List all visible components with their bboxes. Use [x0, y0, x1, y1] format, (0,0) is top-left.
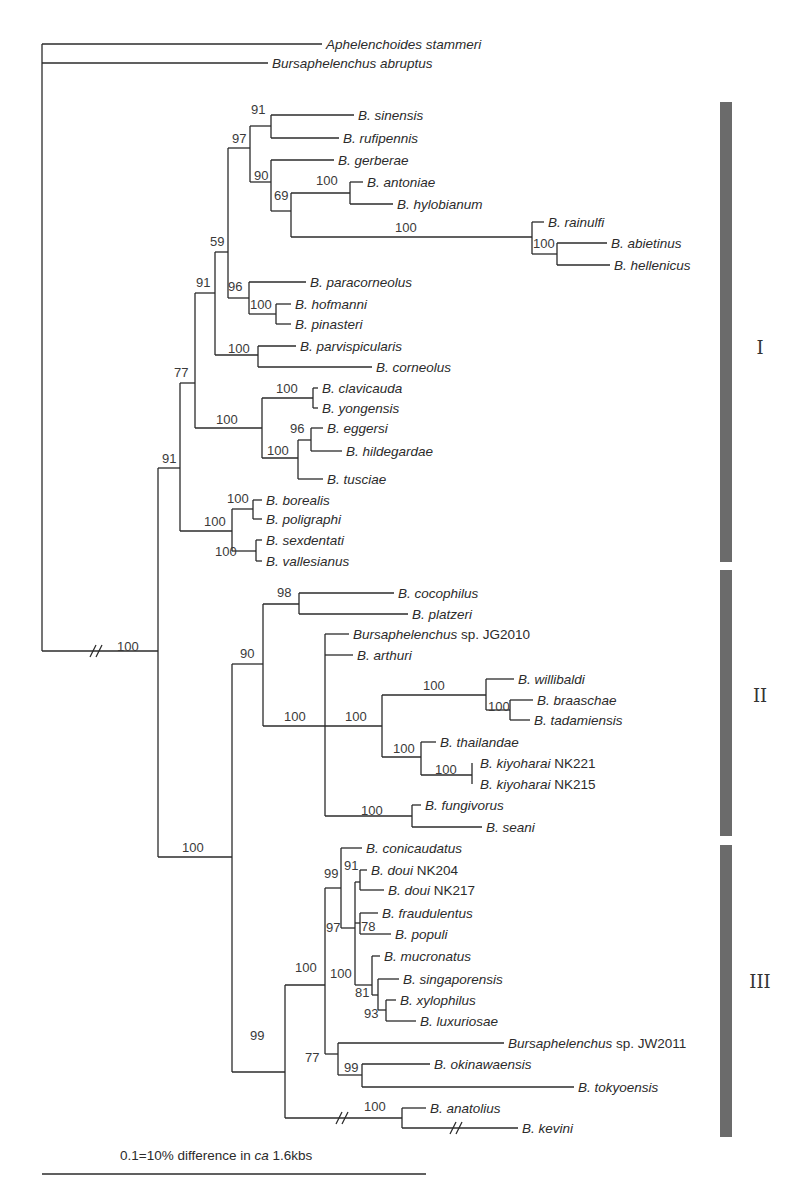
taxon-label: B. singaporensis: [403, 972, 503, 987]
taxon-label: B. hofmanni: [295, 297, 368, 312]
bootstrap-values: 1009177915997919069100100100961001001001…: [117, 102, 555, 1114]
taxon-label: Bursaphelenchus sp. JG2010: [353, 627, 530, 642]
phylogenetic-tree: Aphelenchoides stammeriBursaphelenchus a…: [0, 0, 790, 1196]
taxon-label: B. gerberae: [338, 153, 409, 168]
taxon-label: B. poligraphi: [266, 512, 342, 527]
taxon-label: B. hellenicus: [614, 258, 691, 273]
clade-bar: [720, 845, 732, 1137]
bootstrap-value: 81: [355, 985, 369, 1000]
bootstrap-value: 100: [393, 741, 415, 756]
bootstrap-value: 100: [215, 544, 237, 559]
bootstrap-value: 100: [435, 762, 457, 777]
bootstrap-value: 100: [182, 840, 204, 855]
bootstrap-value: 100: [228, 341, 250, 356]
bootstrap-value: 99: [344, 1060, 358, 1075]
taxon-label: B. luxuriosae: [420, 1014, 498, 1029]
bootstrap-value: 100: [216, 412, 238, 427]
bootstrap-value: 77: [305, 1050, 319, 1065]
clade-label: I: [756, 337, 763, 358]
bootstrap-value: 100: [316, 173, 338, 188]
bootstrap-value: 59: [210, 234, 224, 249]
bootstrap-value: 100: [267, 443, 289, 458]
bootstrap-value: 100: [227, 491, 249, 506]
taxon-label: B. tadamiensis: [534, 713, 623, 728]
clade-bar: [720, 570, 732, 836]
bootstrap-value: 96: [290, 421, 304, 436]
bootstrap-value: 99: [324, 866, 338, 881]
scale-bar-label: 0.1=10% difference in ca 1.6kbs: [120, 1148, 313, 1163]
bootstrap-value: 100: [276, 381, 298, 396]
taxon-label: B. kiyoharai NK215: [480, 777, 596, 792]
taxon-label: B. sexdentati: [266, 533, 345, 548]
taxon-label: B. antoniae: [367, 175, 435, 190]
bootstrap-value: 69: [274, 188, 288, 203]
bootstrap-value: 100: [533, 236, 555, 251]
taxon-label: B. eggersi: [327, 421, 389, 436]
bootstrap-value: 100: [330, 966, 352, 981]
clade-markers: IIIIII: [720, 102, 771, 1137]
bootstrap-value: 91: [344, 858, 358, 873]
bootstrap-value: 91: [196, 275, 210, 290]
taxon-label: B. seani: [486, 820, 536, 835]
bootstrap-value: 100: [345, 709, 367, 724]
taxon-label: B. populi: [395, 927, 449, 942]
taxon-label: B. parvispicularis: [300, 339, 402, 354]
taxon-label: B. paracorneolus: [310, 275, 412, 290]
bootstrap-value: 100: [364, 1099, 386, 1114]
bootstrap-value: 90: [240, 646, 254, 661]
taxon-label: B. doui NK217: [388, 883, 475, 898]
clade-label: III: [749, 971, 770, 992]
bootstrap-value: 100: [395, 220, 417, 235]
taxon-label: B. rufipennis: [343, 131, 418, 146]
taxon-label: B. yongensis: [322, 401, 400, 416]
clade-bar: [720, 102, 732, 562]
taxon-label: B. anatolius: [430, 1101, 501, 1116]
taxon-label: B. thailandae: [440, 735, 519, 750]
bootstrap-value: 100: [423, 678, 445, 693]
bootstrap-value: 77: [174, 365, 188, 380]
taxon-label: Bursaphelenchus sp. JW2011: [508, 1036, 686, 1051]
bootstrap-value: 91: [251, 102, 265, 117]
bootstrap-value: 100: [204, 514, 226, 529]
taxon-label: B. willibaldi: [518, 672, 586, 687]
bootstrap-value: 100: [284, 709, 306, 724]
scale-bar: 0.1=10% difference in ca 1.6kbs: [42, 1148, 426, 1174]
taxon-label: B. doui NK204: [371, 863, 459, 878]
bootstrap-value: 78: [361, 919, 375, 934]
taxon-label: B. okinawaensis: [434, 1057, 532, 1072]
taxon-label: B. abietinus: [611, 236, 682, 251]
bootstrap-value: 100: [295, 960, 317, 975]
taxon-label: B. mucronatus: [384, 949, 471, 964]
taxon-label: B. tokyoensis: [578, 1080, 659, 1095]
taxon-label: B. conicaudatus: [366, 841, 462, 856]
clade-label: II: [753, 685, 767, 706]
bootstrap-value: 96: [228, 279, 242, 294]
taxon-label: B. platzeri: [412, 607, 473, 622]
taxon-label: B. corneolus: [376, 360, 451, 375]
taxon-label: B. braaschae: [537, 693, 617, 708]
bootstrap-value: 100: [488, 699, 510, 714]
taxon-label: B. tusciae: [327, 472, 386, 487]
bootstrap-value: 100: [361, 803, 383, 818]
taxon-label: B. sinensis: [358, 108, 424, 123]
bootstrap-value: 91: [162, 451, 176, 466]
bootstrap-value: 97: [232, 131, 246, 146]
bootstrap-value: 100: [117, 639, 139, 654]
taxon-label: B. kiyoharai NK221: [480, 756, 596, 771]
taxon-label: Bursaphelenchus abruptus: [272, 56, 433, 71]
bootstrap-value: 98: [277, 585, 291, 600]
taxon-label: B. fraudulentus: [382, 906, 473, 921]
bootstrap-value: 99: [250, 1028, 264, 1043]
taxon-label: B. clavicauda: [322, 381, 403, 396]
bootstrap-value: 97: [326, 920, 340, 935]
taxon-label: B. hildegardae: [346, 444, 433, 459]
taxon-label: B. cocophilus: [398, 586, 479, 601]
taxon-label: Aphelenchoides stammeri: [325, 37, 482, 52]
taxon-label: B. xylophilus: [400, 993, 476, 1008]
taxon-label: B. rainulfi: [548, 215, 605, 230]
taxon-label: B. vallesianus: [266, 554, 350, 569]
branches-clade-2: [158, 593, 533, 1072]
taxon-label: B. borealis: [266, 493, 330, 508]
taxon-label: B. pinasteri: [295, 317, 364, 332]
bootstrap-value: 100: [250, 297, 272, 312]
